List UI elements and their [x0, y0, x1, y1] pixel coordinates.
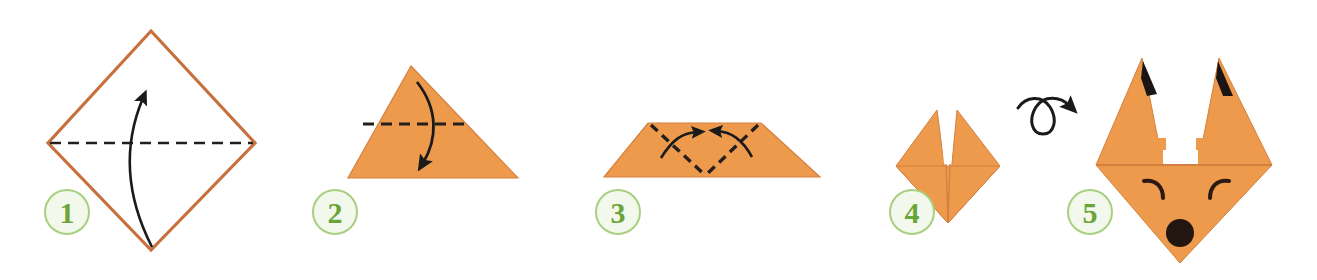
turn-over-loop-arrow: [1018, 98, 1070, 134]
badge-number: 1: [60, 196, 75, 229]
origami-instruction-diagram: 1 2 3 4 5 Origami fox head folding instr…: [0, 0, 1317, 280]
step-badge-1: 1: [45, 190, 89, 234]
step-badge-3: 3: [596, 190, 640, 234]
fox-face-lower: [1096, 165, 1272, 263]
badge-number: 3: [611, 196, 626, 229]
step-5-figure: [1096, 58, 1272, 263]
fox-forehead-notch: [1166, 58, 1196, 165]
fox-nose: [1166, 219, 1194, 247]
badge-number: 4: [905, 196, 920, 229]
step-badge-2: 2: [313, 190, 357, 234]
step-badge-4: 4: [890, 190, 934, 234]
badge-number: 2: [328, 196, 343, 229]
badge-number: 5: [1083, 196, 1098, 229]
step-badge-5: 5: [1068, 190, 1112, 234]
diagram-canvas: 1 2 3 4 5: [0, 0, 1317, 280]
step-2-figure: [348, 66, 518, 178]
step-3-figure: [604, 123, 820, 177]
